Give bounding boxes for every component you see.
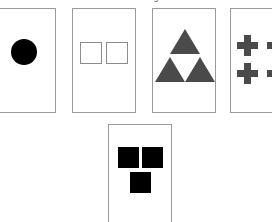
cross-shape — [267, 63, 272, 84]
triangle-shape — [170, 29, 200, 54]
caption-strip: Visual Reasoning Task — [0, 0, 272, 3]
caption-text: Visual Reasoning Task — [0, 0, 272, 3]
cross-shape — [237, 63, 258, 84]
cross-shape — [237, 35, 258, 56]
triangle-shape — [155, 57, 185, 82]
square-solid-shape — [142, 147, 163, 168]
card-outlined-squares[interactable] — [72, 8, 136, 113]
cross-shape — [267, 35, 272, 56]
square-outline-shape — [106, 42, 128, 64]
triangle-shape — [185, 57, 215, 82]
card-triangles[interactable] — [152, 8, 216, 113]
square-solid-shape — [118, 147, 139, 168]
circle-shape — [11, 39, 37, 65]
card-solid-squares[interactable] — [108, 124, 172, 222]
square-solid-shape — [130, 172, 151, 193]
card-circle[interactable] — [0, 8, 56, 113]
card-crosses[interactable] — [230, 8, 272, 113]
shape-card-canvas: Visual Reasoning Task — [0, 0, 272, 222]
square-outline-shape — [80, 42, 102, 64]
